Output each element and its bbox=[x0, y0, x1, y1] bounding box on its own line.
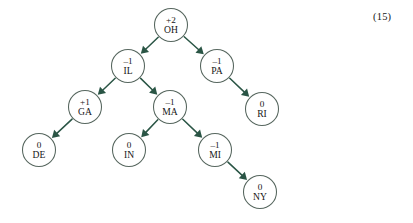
figure-tree-diagram: +2OH–1IL–1PA+1GA–1MA0RI0DE0IN–1MI0NY (15… bbox=[0, 0, 413, 223]
edge-line bbox=[228, 162, 243, 176]
node-state-name: MI bbox=[209, 149, 221, 160]
edge-pa-to-ri bbox=[230, 78, 249, 97]
node-state-name: IL bbox=[123, 65, 132, 76]
edge-line bbox=[145, 37, 158, 50]
edge-line bbox=[102, 78, 115, 91]
tree-node-ga[interactable]: +1GA bbox=[69, 91, 102, 124]
node-state-name: OH bbox=[164, 24, 178, 35]
node-state-name: MA bbox=[162, 106, 178, 117]
edge-ma-to-mi bbox=[183, 119, 202, 138]
edge-oh-to-pa bbox=[184, 37, 204, 54]
edge-oh-to-il bbox=[141, 37, 158, 54]
node-state-name: GA bbox=[78, 106, 92, 117]
equation-number-label: (15) bbox=[373, 11, 391, 22]
edge-line bbox=[184, 37, 199, 51]
edge-line bbox=[145, 120, 158, 133]
nodes-layer: +2OH–1IL–1PA+1GA–1MA0RI0DE0IN–1MI0NY bbox=[23, 9, 279, 209]
node-state-name: NY bbox=[253, 191, 267, 202]
edge-line bbox=[141, 78, 154, 90]
edge-line bbox=[56, 119, 72, 134]
edge-line bbox=[230, 78, 245, 93]
node-state-name: RI bbox=[257, 108, 267, 119]
edge-il-to-ma bbox=[141, 78, 158, 94]
tree-node-oh[interactable]: +2OH bbox=[155, 9, 188, 42]
edge-mi-to-ny bbox=[228, 162, 247, 180]
tree-node-ma[interactable]: –1MA bbox=[154, 91, 187, 124]
tree-graph-canvas: +2OH–1IL–1PA+1GA–1MA0RI0DE0IN–1MI0NY bbox=[0, 0, 413, 223]
tree-node-mi[interactable]: –1MI bbox=[199, 134, 232, 167]
tree-node-in[interactable]: 0IN bbox=[113, 134, 146, 167]
tree-node-il[interactable]: –1IL bbox=[112, 50, 145, 83]
node-state-name: IN bbox=[124, 149, 134, 160]
tree-node-ny[interactable]: 0NY bbox=[244, 176, 277, 209]
node-state-name: DE bbox=[33, 149, 46, 160]
edge-il-to-ga bbox=[98, 78, 115, 95]
edge-ga-to-de bbox=[52, 119, 72, 138]
edge-line bbox=[183, 119, 198, 134]
tree-node-ri[interactable]: 0RI bbox=[246, 93, 279, 126]
tree-node-pa[interactable]: –1PA bbox=[201, 50, 234, 83]
node-state-name: PA bbox=[211, 65, 222, 76]
tree-node-de[interactable]: 0DE bbox=[23, 134, 56, 167]
edge-ma-to-in bbox=[141, 120, 158, 137]
